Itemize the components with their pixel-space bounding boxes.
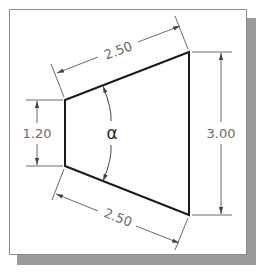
right-height-label: 3.00 bbox=[207, 126, 236, 141]
drawing-canvas: 1.20 3.00 2.50 2.50 α bbox=[0, 0, 261, 273]
left-height-label: 1.20 bbox=[23, 126, 52, 141]
trapezoid-shape bbox=[65, 52, 189, 215]
bottom-edge-label: 2.50 bbox=[102, 205, 134, 229]
top-edge-label: 2.50 bbox=[102, 38, 134, 62]
angle-label: α bbox=[106, 123, 117, 143]
